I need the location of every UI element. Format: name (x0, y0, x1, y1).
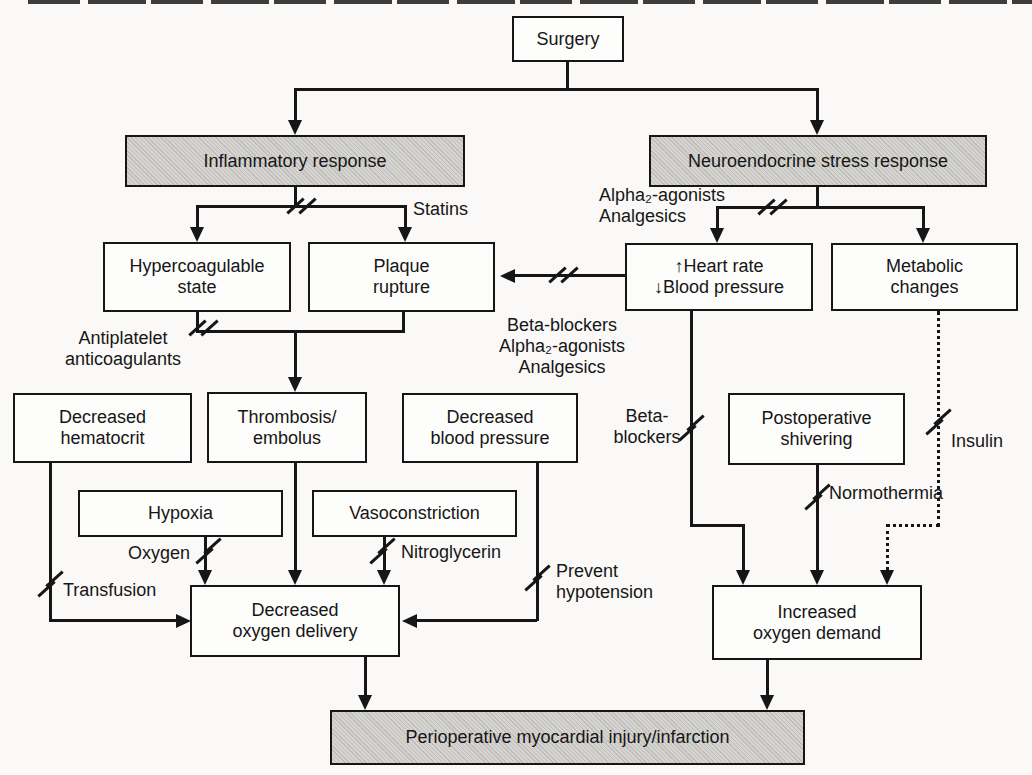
arrowhead-down (916, 228, 930, 243)
connector-line (690, 311, 693, 527)
decreased-hematocrit-box: Decreasedhematocrit (13, 393, 192, 463)
arrowhead-down (398, 227, 412, 242)
heart-rate-blood-pressure-text: ↓Blood pressure (654, 277, 784, 298)
beta-blockers-combo-label-text: Alpha₂-agonists (499, 336, 625, 357)
statins-label-text: Statins (413, 199, 468, 220)
prevent-hypotension-label: Preventhypotension (556, 561, 653, 603)
connector-line (690, 524, 745, 527)
normothermia-label: Normothermia (829, 483, 943, 504)
perioperative-myocardial-injury-text: Perioperative myocardial injury/infarcti… (405, 727, 729, 748)
arrowhead-left (402, 614, 417, 628)
beta-blockers-combo-label: Beta-blockersAlpha₂-agonistsAnalgesics (499, 315, 625, 378)
connector-line (716, 206, 925, 209)
arrowhead-down (710, 228, 724, 243)
inflammatory-response-text: Inflammatory response (203, 151, 386, 172)
prevent-hypotension-label-text: Prevent (556, 561, 653, 582)
surgery-text: Surgery (536, 29, 599, 50)
arrowhead-down (377, 570, 391, 585)
intervention-slash-icon (933, 409, 951, 426)
nitroglycerin-label-text: Nitroglycerin (401, 542, 501, 563)
connector-line-dotted (886, 524, 940, 527)
arrowhead-down (190, 227, 204, 242)
arrowhead-down (288, 570, 302, 585)
alpha2-agonists-analgesics-label-text: Alpha₂-agonists (599, 185, 725, 206)
arrowhead-down (198, 570, 212, 585)
statins-label: Statins (413, 199, 468, 220)
neuroendocrine-stress-response-text: Neuroendocrine stress response (688, 151, 948, 172)
increased-oxygen-demand-text: Increased (777, 602, 856, 623)
beta-blockers-combo-label-text: Analgesics (499, 357, 625, 378)
arrowhead-down (810, 120, 824, 135)
connector-line (566, 62, 569, 90)
beta-blockers-label: Beta-blockers (613, 406, 680, 448)
flow-diagram: SurgeryInflammatory responseNeuroendocri… (0, 0, 1032, 775)
hypercoagulable-state-text: state (177, 277, 216, 298)
connector-line (536, 463, 539, 621)
metabolic-changes-text: changes (890, 277, 958, 298)
oxygen-label: Oxygen (128, 543, 190, 564)
antiplatelet-anticoagulants-label-text: Antiplatelet (65, 328, 181, 349)
arrowhead-down (760, 695, 774, 710)
connector-line (294, 330, 297, 382)
decreased-blood-pressure-box: Decreasedblood pressure (402, 393, 578, 463)
decreased-blood-pressure-text: Decreased (446, 407, 533, 428)
postoperative-shivering-box: Postoperativeshivering (728, 393, 905, 465)
arrowhead-down (288, 377, 302, 392)
connector-line (402, 312, 405, 333)
alpha2-agonists-analgesics-label-text: Analgesics (599, 206, 725, 227)
plaque-rupture-text: Plaque (373, 256, 429, 277)
arrowhead-right (176, 614, 191, 628)
normothermia-label-text: Normothermia (829, 483, 943, 504)
antiplatelet-anticoagulants-label-text: anticoagulants (65, 349, 181, 370)
connector-line (411, 619, 537, 622)
neuroendocrine-stress-response-box: Neuroendocrine stress response (649, 135, 987, 187)
thrombosis-embolus-box: Thrombosis/embolus (207, 392, 367, 463)
thrombosis-embolus-text: embolus (253, 428, 321, 449)
alpha2-agonists-analgesics-label: Alpha₂-agonistsAnalgesics (599, 185, 725, 227)
arrowhead-left (500, 269, 515, 283)
connector-line (294, 463, 297, 577)
postoperative-shivering-text: shivering (780, 429, 852, 450)
hypercoagulable-state-box: Hypercoagulablestate (103, 242, 291, 312)
prevent-hypotension-label-text: hypotension (556, 582, 653, 603)
heart-rate-blood-pressure-text: ↑Heart rate (674, 256, 763, 277)
beta-blockers-label-text: Beta- (613, 406, 680, 427)
insulin-label: Insulin (951, 431, 1003, 452)
nitroglycerin-label: Nitroglycerin (401, 542, 501, 563)
surgery-box: Surgery (512, 16, 624, 62)
transfusion-label: Transfusion (63, 580, 156, 601)
intervention-slash-icon (532, 565, 550, 582)
vasoconstriction-text: Vasoconstriction (349, 503, 480, 524)
vasoconstriction-box: Vasoconstriction (312, 490, 517, 537)
arrowhead-down (880, 570, 894, 585)
heart-rate-blood-pressure-box: ↑Heart rate↓Blood pressure (625, 243, 813, 311)
hypercoagulable-state-text: Hypercoagulable (129, 256, 264, 277)
decreased-hematocrit-text: Decreased (59, 407, 146, 428)
decreased-oxygen-delivery-text: Decreased (251, 600, 338, 621)
antiplatelet-anticoagulants-label: Antiplateletanticoagulants (65, 328, 181, 370)
metabolic-changes-text: Metabolic (886, 256, 963, 277)
decreased-blood-pressure-text: blood pressure (430, 428, 549, 449)
transfusion-label-text: Transfusion (63, 580, 156, 601)
arrowhead-down (358, 695, 372, 710)
connector-line (816, 88, 819, 124)
connector-line (294, 88, 819, 91)
decreased-oxygen-delivery-text: oxygen delivery (232, 621, 357, 642)
beta-blockers-combo-label-text: Beta-blockers (499, 315, 625, 336)
connector-line (49, 619, 181, 622)
perioperative-myocardial-injury-box: Perioperative myocardial injury/infarcti… (330, 710, 805, 765)
metabolic-changes-box: Metabolicchanges (831, 243, 1018, 311)
decreased-hematocrit-text: hematocrit (60, 428, 144, 449)
intervention-slash-icon (377, 538, 395, 555)
increased-oxygen-demand-box: Increasedoxygen demand (712, 585, 922, 660)
intervention-slash-icon (45, 571, 63, 588)
intervention-slash-icon (812, 484, 830, 501)
arrowhead-down (288, 120, 302, 135)
plaque-rupture-box: Plaquerupture (308, 242, 495, 312)
hypoxia-box: Hypoxia (78, 490, 283, 537)
page-edge-artifact (28, 0, 1032, 4)
thrombosis-embolus-text: Thrombosis/ (237, 407, 336, 428)
connector-line (816, 465, 819, 577)
connector-line (49, 463, 52, 622)
inflammatory-response-box: Inflammatory response (125, 135, 465, 187)
